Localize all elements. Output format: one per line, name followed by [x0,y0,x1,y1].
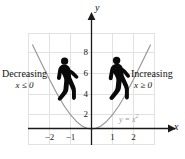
gridline-horizontal [28,94,155,95]
x-tick-label: 2 [131,133,136,142]
person-walking-down-icon [52,57,80,101]
x-axis-label: x [174,121,178,132]
curve-equation-label: y = x2 [119,113,139,124]
gridline-horizontal [28,144,155,145]
gridline-horizontal [28,33,155,34]
x-tick-label: 1 [110,133,115,142]
y-axis-arrow [88,12,96,20]
gridline-vertical [91,33,92,145]
parabola-figure: y x −2 −1 1 2 8 6 4 2 Decreasing x ≤ 0 I… [0,0,185,159]
decreasing-annotation: Decreasing x ≤ 0 [2,68,47,90]
y-tick-label: 2 [78,110,88,119]
increasing-label: Increasing [131,68,173,80]
person-walking-up-icon [107,56,135,102]
decreasing-condition: x ≤ 0 [2,80,47,90]
y-tick-label: 8 [78,48,88,57]
gridline-vertical [49,33,50,145]
y-axis-label: y [95,2,99,13]
increasing-condition: x ≥ 0 [131,80,173,90]
gridline-horizontal [28,52,155,53]
x-tick-label: −2 [45,133,55,142]
x-tick-label: −1 [66,133,76,142]
curve-equation-exponent: 2 [136,113,139,119]
decreasing-label: Decreasing [2,68,47,80]
increasing-annotation: Increasing x ≥ 0 [131,68,173,90]
curve-equation-base: y = x [119,115,136,124]
